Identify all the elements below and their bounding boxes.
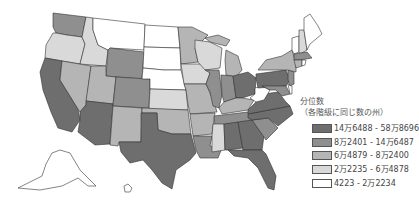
state-CO[interactable] <box>113 77 150 108</box>
state-SD[interactable] <box>143 47 181 70</box>
legend-label: 4223 - 2万2234 <box>334 178 396 189</box>
legend-label: 8万2401 - 14万6487 <box>334 137 414 148</box>
legend-swatch <box>312 165 332 174</box>
state-NY[interactable] <box>258 50 296 72</box>
state-ME[interactable] <box>304 14 322 50</box>
legend-label: 14万6488 - 58万8696 <box>334 123 419 134</box>
state-VT[interactable] <box>292 36 299 54</box>
state-HI[interactable] <box>124 184 132 192</box>
legend-items: 14万6488 - 58万8696 8万2401 - 14万6487 6万487… <box>312 122 419 190</box>
state-AK[interactable] <box>18 150 96 190</box>
legend-item: 4223 - 2万2234 <box>312 176 419 190</box>
state-OH[interactable] <box>233 72 256 98</box>
state-PA[interactable] <box>256 70 290 88</box>
state-MS[interactable] <box>212 124 225 152</box>
legend-title: 分位数 <box>300 96 419 107</box>
state-MI[interactable] <box>225 50 242 77</box>
state-AR[interactable] <box>190 113 215 136</box>
legend-label: 2万2235 - 6万4878 <box>334 164 409 175</box>
legend-item: 8万2401 - 14万6487 <box>312 136 419 150</box>
legend-swatch <box>312 124 332 133</box>
state-HI-islands-2[interactable] <box>117 178 120 181</box>
legend-item: 6万4879 - 8万2400 <box>312 149 419 163</box>
map-legend: 分位数 （各階級に同じ数の州） 14万6488 - 58万8696 8万2401… <box>302 96 419 190</box>
state-RI[interactable] <box>302 60 306 66</box>
legend-label: 6万4879 - 8万2400 <box>334 150 409 161</box>
state-ND[interactable] <box>144 25 180 48</box>
state-KS[interactable] <box>149 89 188 110</box>
state-NJ[interactable] <box>288 70 294 86</box>
state-WY[interactable] <box>106 48 144 79</box>
legend-swatch <box>312 138 332 147</box>
legend-swatch <box>312 179 332 188</box>
legend-swatch <box>312 151 332 160</box>
legend-subtitle: （各階級に同じ数の州） <box>300 107 419 118</box>
state-MT[interactable] <box>93 18 145 50</box>
state-NM[interactable] <box>110 106 142 146</box>
state-HI-islands[interactable] <box>111 175 114 178</box>
legend-item: 2万2235 - 6万4878 <box>312 163 419 177</box>
legend-item: 14万6488 - 58万8696 <box>312 122 419 136</box>
state-FL[interactable] <box>228 150 276 190</box>
